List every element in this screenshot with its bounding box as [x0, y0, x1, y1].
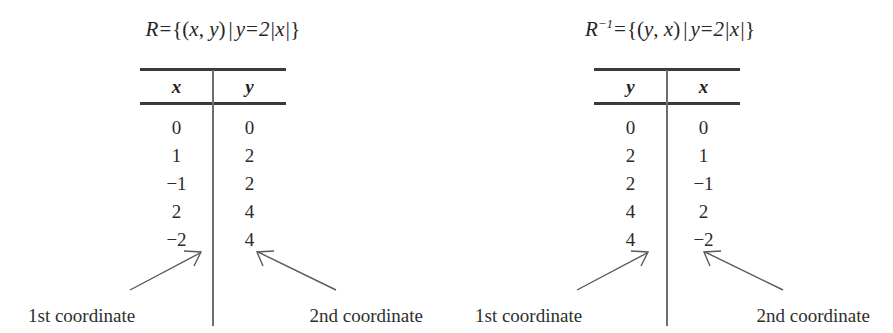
second-coordinate-arrow-icon	[697, 247, 787, 292]
second-coordinate-arrow-icon	[250, 247, 340, 292]
column-header-x: x	[140, 76, 213, 98]
variable-comma: ,	[653, 17, 664, 41]
cell-y: 0	[213, 117, 286, 139]
inverse-relation-panel: R−1={(y, x)|y=2|x|} y x 0 0 2 1 2 −1 4 2	[447, 0, 893, 333]
cell-y: 4	[594, 201, 667, 223]
second-variable: x	[664, 17, 673, 41]
set-brace-close: }	[290, 17, 300, 41]
relation-symbol: R	[585, 17, 598, 41]
cell-x: 0	[140, 117, 213, 139]
cell-x: −1	[140, 173, 213, 195]
condition-left: y	[690, 17, 699, 41]
column-header-y: y	[594, 76, 667, 98]
cell-y: 0	[594, 117, 667, 139]
table-column-divider	[212, 70, 214, 326]
condition-left: y	[236, 17, 245, 41]
second-coordinate-caption: 2nd coordinate	[757, 305, 870, 327]
variable-comma: ,	[199, 17, 210, 41]
equals-sign: =	[158, 17, 172, 41]
paren-close: )	[219, 17, 226, 41]
condition-right: 2|x|	[259, 17, 290, 41]
cell-y: 2	[213, 173, 286, 195]
first-coordinate-arrow-icon	[128, 247, 208, 292]
equals-sign: =	[613, 17, 627, 41]
first-variable: y	[644, 17, 653, 41]
condition-equals: =	[700, 17, 714, 41]
inverse-exponent: −1	[598, 16, 613, 31]
relation-panel: R={(x, y)|y=2|x|} x y 0 0 1 2 −1 2 2 4	[0, 0, 446, 333]
second-variable: y	[209, 17, 218, 41]
cell-y: 2	[213, 145, 286, 167]
cell-y: 4	[213, 201, 286, 223]
first-coordinate-caption: 1st coordinate	[475, 305, 582, 327]
first-coordinate-arrow-icon	[575, 247, 655, 292]
condition-equals: =	[245, 17, 259, 41]
cell-y: 2	[594, 173, 667, 195]
first-coordinate-caption: 1st coordinate	[28, 305, 135, 327]
set-brace-open: {(	[172, 17, 189, 41]
cell-x: 2	[667, 201, 740, 223]
condition-right: 2|x|	[714, 17, 745, 41]
such-that-bar: |	[226, 17, 236, 41]
relation-symbol: R	[146, 17, 159, 41]
cell-x: 2	[140, 201, 213, 223]
first-variable: x	[189, 17, 198, 41]
set-brace-open: {(	[627, 17, 644, 41]
cell-x: 1	[140, 145, 213, 167]
second-coordinate-caption: 2nd coordinate	[310, 305, 423, 327]
table-column-divider	[666, 70, 668, 326]
cell-x: 0	[667, 117, 740, 139]
column-header-y: y	[213, 76, 286, 98]
cell-x: 1	[667, 145, 740, 167]
relation-set-title: R={(x, y)|y=2|x|}	[0, 14, 446, 44]
column-header-x: x	[667, 76, 740, 98]
set-brace-close: }	[745, 17, 755, 41]
cell-x: −1	[667, 173, 740, 195]
inverse-relation-set-title: R−1={(y, x)|y=2|x|}	[447, 14, 893, 44]
cell-y: 2	[594, 145, 667, 167]
such-that-bar: |	[680, 17, 690, 41]
